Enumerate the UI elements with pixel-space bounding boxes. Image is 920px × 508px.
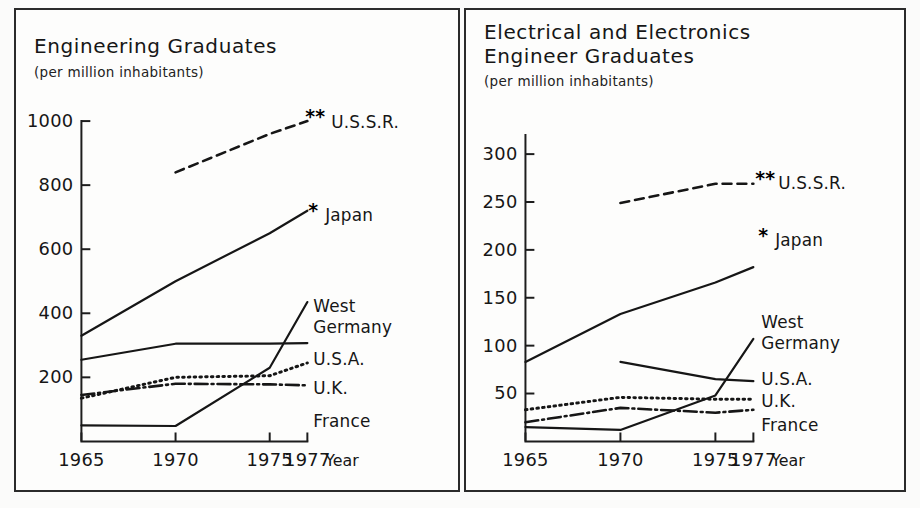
series-label-west-germany: West — [313, 296, 355, 316]
series-line-u-s-s-r — [176, 121, 308, 172]
x-tick-label: 1965 — [58, 449, 105, 470]
series-line-japan — [81, 211, 307, 336]
axis-lines — [81, 121, 307, 441]
series-label-japan: Japan — [324, 205, 373, 225]
y-tick-label: 600 — [39, 238, 74, 259]
x-tick-label: 1977 — [730, 449, 777, 470]
series-label-u-k: U.K. — [313, 378, 348, 398]
y-tick-label: 250 — [483, 191, 518, 212]
y-tick-label: 800 — [39, 174, 74, 195]
x-tick-label: 1977 — [284, 449, 331, 470]
series-label-u-k: U.K. — [761, 391, 796, 411]
chart-panel-engineering-graduates: Engineering Graduates (per million inhab… — [14, 8, 460, 492]
series-line-u-s-a — [81, 343, 307, 360]
x-tick-label: 1970 — [597, 449, 644, 470]
series-label-france: France — [761, 415, 818, 435]
y-tick-label: 200 — [483, 239, 518, 260]
chart-canvas-electrical: 501001502002503001965197019751977Year**U… — [466, 10, 904, 490]
y-tick-label: 400 — [39, 302, 74, 323]
y-tick-label: 50 — [494, 382, 517, 403]
y-tick-label: 1000 — [27, 110, 74, 131]
series-line-west-germany — [81, 302, 307, 426]
series-line-u-s-a — [620, 362, 753, 381]
chart-panel-electrical-electronics: Electrical and Electronics Engineer Grad… — [464, 8, 906, 492]
axis-lines — [525, 135, 753, 441]
y-tick-label: 200 — [39, 366, 74, 387]
series-line-france — [525, 408, 753, 422]
series-line-u-s-s-r — [620, 184, 753, 203]
series-label-west-germany: Germany — [761, 333, 840, 353]
series-label-u-s-a: U.S.A. — [761, 369, 812, 389]
series-footnote-marker-u-s-s-r: ** — [755, 168, 775, 189]
x-tick-label: 1965 — [502, 449, 549, 470]
chart-canvas-engineering: 20040060080010001965197019751977Year**U.… — [16, 10, 458, 490]
series-label-west-germany: Germany — [313, 317, 392, 337]
x-axis-caption: Year — [324, 451, 359, 470]
figure-root: Engineering Graduates (per million inhab… — [0, 0, 920, 508]
series-label-u-s-s-r: U.S.S.R. — [331, 112, 399, 132]
series-label-france: France — [313, 411, 370, 431]
series-label-west-germany: West — [761, 312, 803, 332]
y-tick-label: 100 — [483, 335, 518, 356]
series-footnote-marker-japan: * — [308, 200, 318, 221]
series-line-japan — [525, 267, 753, 362]
series-label-u-s-a: U.S.A. — [313, 349, 364, 369]
x-tick-label: 1970 — [152, 449, 199, 470]
series-footnote-marker-japan: * — [758, 225, 768, 246]
series-footnote-marker-u-s-s-r: ** — [305, 106, 325, 127]
x-axis-caption: Year — [770, 451, 805, 470]
series-label-u-s-s-r: U.S.S.R. — [778, 173, 846, 193]
series-line-u-k — [81, 363, 307, 398]
y-tick-label: 300 — [483, 143, 518, 164]
series-label-japan: Japan — [774, 230, 823, 250]
y-tick-label: 150 — [483, 287, 518, 308]
